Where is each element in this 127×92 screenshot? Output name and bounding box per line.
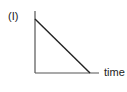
chart-plot	[0, 0, 127, 92]
x-axis-label: time	[104, 66, 125, 78]
data-line	[35, 19, 90, 73]
